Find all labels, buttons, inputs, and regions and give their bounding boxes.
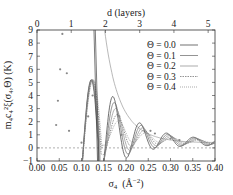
legend-label: Θ = 0.2	[147, 61, 176, 71]
scatter-point	[68, 130, 70, 132]
scatter-point	[120, 134, 122, 136]
x-label-sub: 4	[114, 183, 118, 191]
y-tick-label: 5	[28, 78, 33, 88]
y-tick-label: 1	[28, 130, 33, 140]
y-tick-label: −1	[23, 156, 33, 166]
x2-tick-label: 4	[172, 19, 177, 29]
scatter-point	[118, 115, 120, 117]
y-tick-label: 7	[28, 52, 33, 62]
legend-label: Θ = 0.0	[147, 40, 176, 50]
x-tick-label: 0.20	[118, 163, 135, 173]
x2-tick-label: 2	[103, 19, 108, 29]
x-tick-label: 0.15	[95, 163, 112, 173]
x-tick-label: 0.10	[73, 163, 90, 173]
x-tick-label: 0.05	[51, 163, 68, 173]
scatter-point	[149, 130, 151, 132]
x-tick-label: 0.40	[207, 163, 224, 173]
scatter-point	[92, 94, 94, 96]
scatter-point	[59, 68, 61, 70]
x2-axis-title: d (layers)	[107, 7, 145, 19]
scatter-point	[154, 132, 156, 134]
x2-tick-label: 5	[206, 19, 211, 29]
y-tick-label: 0	[28, 143, 33, 153]
scatter-point	[87, 115, 89, 117]
x-tick-label: 0.25	[140, 163, 157, 173]
legend-label: Θ = 0.3	[147, 72, 176, 82]
y-tick-label: 3	[28, 104, 33, 114]
y-tick-label: 6	[28, 65, 33, 75]
y-tick-label: 8	[28, 38, 33, 48]
x2-tick-label: 0	[35, 19, 40, 29]
x-label-close: )	[140, 178, 143, 190]
y-tick-label: 9	[28, 25, 33, 35]
scatter-point	[61, 33, 63, 35]
scatter-point	[66, 72, 68, 74]
scatter-point	[169, 138, 171, 140]
y-axis-title: m₄c₄²ξ(σ₄,Θ) (K)	[2, 61, 14, 129]
scatter-point	[80, 142, 82, 144]
x-axis-title: σ4(Å−2)	[108, 177, 143, 191]
y-tick-label: 2	[28, 117, 33, 127]
scatter-point	[57, 100, 59, 102]
legend: Θ = 0.0Θ = 0.1Θ = 0.2Θ = 0.3Θ = 0.4	[147, 40, 198, 92]
y-tick-label: 4	[28, 91, 33, 101]
x2-tick-label: 1	[69, 19, 74, 29]
scatter-point	[55, 124, 57, 126]
x2-tick-label: 3	[137, 19, 142, 29]
legend-label: Θ = 0.4	[147, 82, 176, 92]
chart: 0.000.050.100.150.200.250.300.350.40−101…	[0, 0, 233, 195]
x-tick-label: 0.30	[162, 163, 179, 173]
scatter-point	[178, 139, 180, 141]
x-tick-label: 0.35	[184, 163, 201, 173]
legend-label: Θ = 0.1	[147, 51, 176, 61]
